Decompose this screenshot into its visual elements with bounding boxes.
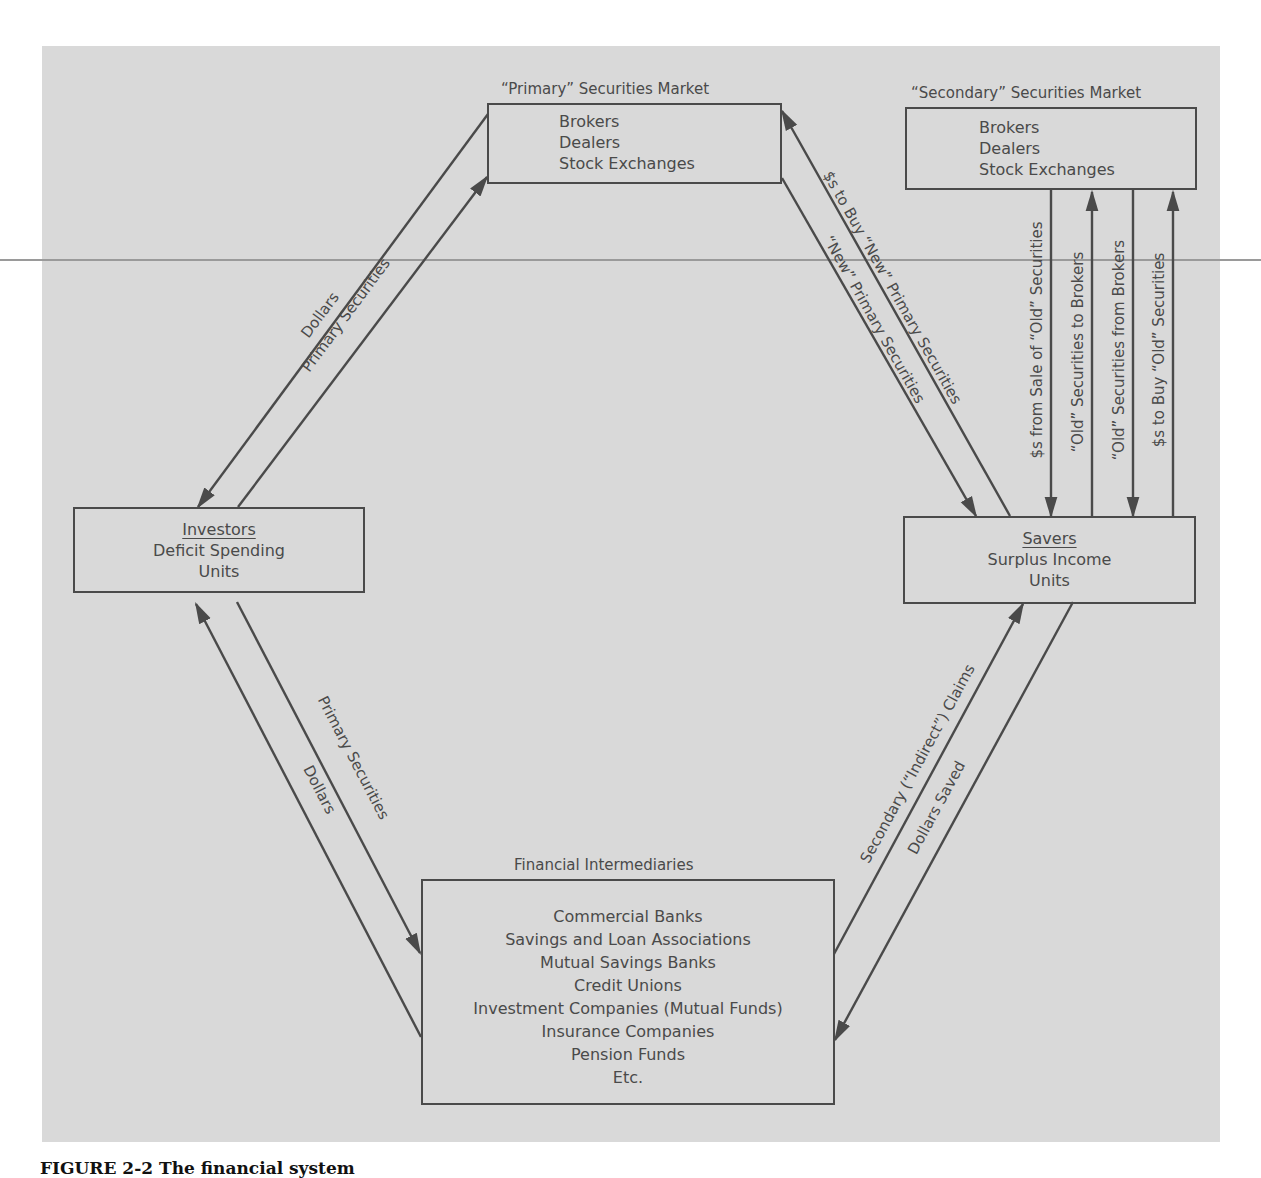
intermediary-item: Credit Unions <box>423 974 833 997</box>
label-secondary-flow-4: $s to Buy “Old” Securities <box>1150 253 1168 448</box>
savers-line: Surplus Income <box>905 549 1194 570</box>
arrow-dollars-to-investors-from-intermediaries <box>196 604 421 1037</box>
primary-market-lines: Brokers Dealers Stock Exchanges <box>559 111 695 174</box>
investors-box: Investors Deficit Spending Units <box>73 507 365 593</box>
intermediary-item: Pension Funds <box>423 1043 833 1066</box>
intermediaries-title: Financial Intermediaries <box>514 856 694 874</box>
intermediary-item: Savings and Loan Associations <box>423 928 833 951</box>
primary-market-line: Stock Exchanges <box>559 153 695 174</box>
intermediary-item: Insurance Companies <box>423 1020 833 1043</box>
secondary-market-line: Brokers <box>979 117 1115 138</box>
investors-line: Units <box>75 561 363 582</box>
figure-caption: FIGURE 2-2 The financial system <box>40 1158 355 1178</box>
secondary-market-lines: Brokers Dealers Stock Exchanges <box>979 117 1115 180</box>
arrow-new-securities-to-savers <box>782 178 976 516</box>
primary-market-line: Brokers <box>559 111 695 132</box>
savers-lines: Savers Surplus Income Units <box>905 528 1194 591</box>
investors-heading: Investors <box>75 519 363 540</box>
arrow-primary-securities-to-intermediaries <box>237 602 420 953</box>
savers-box: Savers Surplus Income Units <box>903 516 1196 604</box>
arrow-claims-to-savers <box>834 604 1023 954</box>
secondary-market-title: “Secondary” Securities Market <box>911 84 1141 102</box>
intermediary-item: Mutual Savings Banks <box>423 951 833 974</box>
arrow-primary-securities-to-primary-market <box>238 177 487 507</box>
savers-line: Units <box>905 570 1194 591</box>
secondary-market-box: Brokers Dealers Stock Exchanges <box>905 107 1197 190</box>
primary-market-line: Dealers <box>559 132 695 153</box>
intermediary-item: Commercial Banks <box>423 905 833 928</box>
intermediary-item: Investment Companies (Mutual Funds) <box>423 997 833 1020</box>
intermediary-item: Etc. <box>423 1066 833 1089</box>
savers-heading: Savers <box>905 528 1194 549</box>
investors-lines: Investors Deficit Spending Units <box>75 519 363 582</box>
secondary-market-line: Stock Exchanges <box>979 159 1115 180</box>
label-intermediaries-dollars: Dollars <box>299 762 339 817</box>
primary-market-title: “Primary” Securities Market <box>501 80 709 98</box>
investors-line: Deficit Spending <box>75 540 363 561</box>
secondary-market-line: Dealers <box>979 138 1115 159</box>
intermediaries-lines: Commercial Banks Savings and Loan Associ… <box>423 905 833 1089</box>
label-secondary-flow-3: “Old” Securities from Brokers <box>1110 240 1128 460</box>
primary-market-box: Brokers Dealers Stock Exchanges <box>487 103 782 184</box>
arrow-dollars-saved-to-intermediaries <box>835 602 1073 1040</box>
label-secondary-flow-2: “Old” Securities to Brokers <box>1069 252 1087 453</box>
label-secondary-flow-1: $s from Sale of “Old” Securities <box>1028 221 1046 458</box>
intermediaries-box: Commercial Banks Savings and Loan Associ… <box>421 879 835 1105</box>
